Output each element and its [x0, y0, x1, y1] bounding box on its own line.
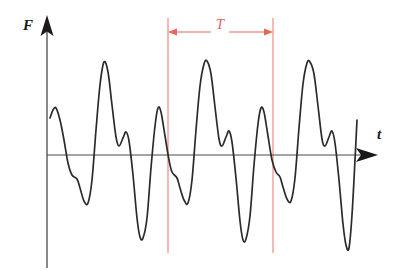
period-arrowhead-right-icon — [264, 29, 273, 36]
period-label-T: T — [216, 16, 226, 32]
waveform-figure: T F t — [0, 0, 401, 271]
waveform-diagram-canvas: T F t — [0, 0, 401, 271]
period-arrowhead-left-icon — [168, 29, 177, 36]
vertical-axis — [41, 15, 54, 268]
vertical-axis-label-F: F — [22, 17, 33, 33]
horizontal-axis — [47, 148, 378, 162]
horizontal-axis-label-t: t — [377, 126, 382, 142]
